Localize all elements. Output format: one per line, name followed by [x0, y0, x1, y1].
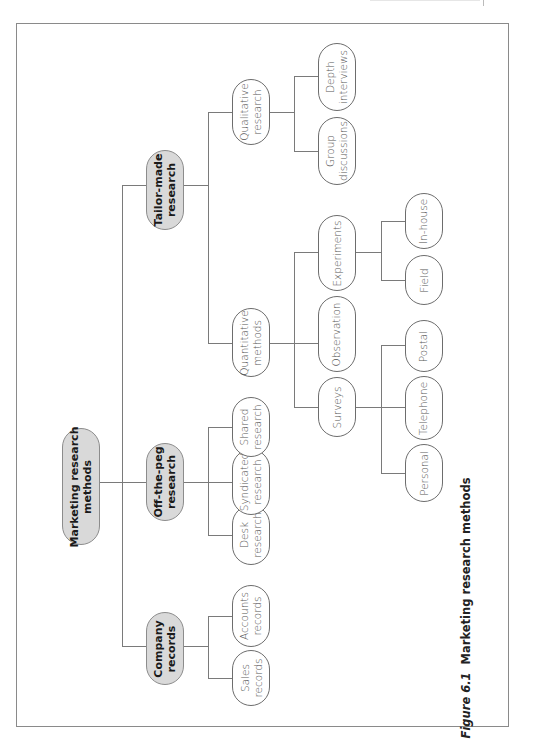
- node-label: Observation: [331, 302, 344, 366]
- connector: [294, 252, 295, 407]
- connector: [208, 427, 209, 535]
- node-label: Group discussions: [324, 121, 350, 181]
- connector: [208, 482, 232, 483]
- node-label: Depth interviews: [324, 50, 350, 104]
- connector: [381, 345, 405, 346]
- connector: [294, 252, 318, 253]
- node-telephone: Telephone: [405, 376, 443, 440]
- node-syndicated-research: Syndicated research: [232, 449, 270, 515]
- node-observation: Observation: [318, 296, 356, 372]
- node-label: Sales records: [238, 658, 264, 697]
- connector: [208, 112, 232, 113]
- node-group-discussions: Group discussions: [318, 117, 356, 185]
- connector: [294, 76, 295, 151]
- figure-number: Figure 6.1: [459, 672, 473, 738]
- node-marketing-research-methods: Marketing research methods: [62, 428, 100, 545]
- node-label: Quantitative methods: [238, 310, 264, 375]
- connector: [294, 407, 318, 408]
- connector: [381, 221, 382, 280]
- connector: [294, 151, 318, 152]
- connector: [294, 76, 318, 77]
- node-label: Shared research: [238, 404, 264, 449]
- trunk-connector: [122, 185, 123, 647]
- connector: [208, 343, 232, 344]
- node-depth-interviews: Depth interviews: [318, 43, 356, 111]
- node-sales-records: Sales records: [232, 650, 270, 706]
- node-label: Surveys: [331, 386, 344, 428]
- node-label: Qualitative research: [238, 83, 264, 140]
- node-label: Postal: [417, 330, 430, 361]
- page-header-tick: [483, 0, 484, 6]
- node-accounts-records: Accounts records: [232, 585, 270, 647]
- node-label: Off-the-peg research: [152, 446, 178, 517]
- node-field: Field: [405, 255, 443, 305]
- connector: [208, 616, 232, 617]
- connector: [122, 646, 146, 647]
- connector: [356, 407, 381, 408]
- connector: [356, 252, 381, 253]
- node-quantitative-methods: Quantitative methods: [232, 308, 270, 377]
- node-label: Desk research: [238, 512, 264, 557]
- connector: [381, 280, 405, 281]
- connector: [100, 482, 122, 483]
- connector: [208, 616, 209, 678]
- connector: [184, 482, 208, 483]
- connector: [208, 678, 232, 679]
- connector: [122, 185, 146, 186]
- node-label: Field: [418, 268, 431, 292]
- figure-caption: Figure 6.1Marketing research methods: [446, 500, 486, 715]
- connector: [208, 535, 232, 536]
- node-label: In-house: [418, 198, 431, 243]
- connector: [122, 482, 146, 483]
- node-label: Company records: [152, 620, 178, 677]
- node-surveys: Surveys: [318, 377, 356, 437]
- node-label: Experiments: [331, 220, 344, 286]
- node-qualitative-research: Qualitative research: [232, 79, 270, 145]
- node-postal: Postal: [405, 320, 443, 372]
- node-company-records: Company records: [146, 612, 184, 685]
- connector: [184, 646, 208, 647]
- node-in-house: In-house: [405, 193, 443, 249]
- connector: [381, 345, 382, 473]
- node-label: Telephone: [418, 381, 431, 434]
- connector: [270, 112, 294, 113]
- connector: [381, 221, 405, 222]
- node-label: Personal: [418, 451, 431, 496]
- node-label: Marketing research methods: [68, 426, 94, 547]
- figure-title: Marketing research methods: [459, 477, 473, 664]
- node-experiments: Experiments: [318, 215, 356, 291]
- node-shared-research: Shared research: [232, 397, 270, 457]
- node-label: Accounts records: [238, 592, 264, 640]
- connector: [208, 427, 232, 428]
- node-off-the-peg-research: Off-the-peg research: [146, 443, 184, 521]
- node-label: Tailor-made research: [152, 154, 178, 227]
- page-header-rule: [370, 0, 480, 1]
- node-tailor-made-research: Tailor-made research: [146, 150, 184, 230]
- connector: [381, 407, 405, 408]
- connector: [381, 473, 405, 474]
- node-personal: Personal: [405, 444, 443, 502]
- connector: [208, 112, 209, 343]
- node-label: Syndicated research: [238, 453, 264, 512]
- connector: [184, 185, 208, 186]
